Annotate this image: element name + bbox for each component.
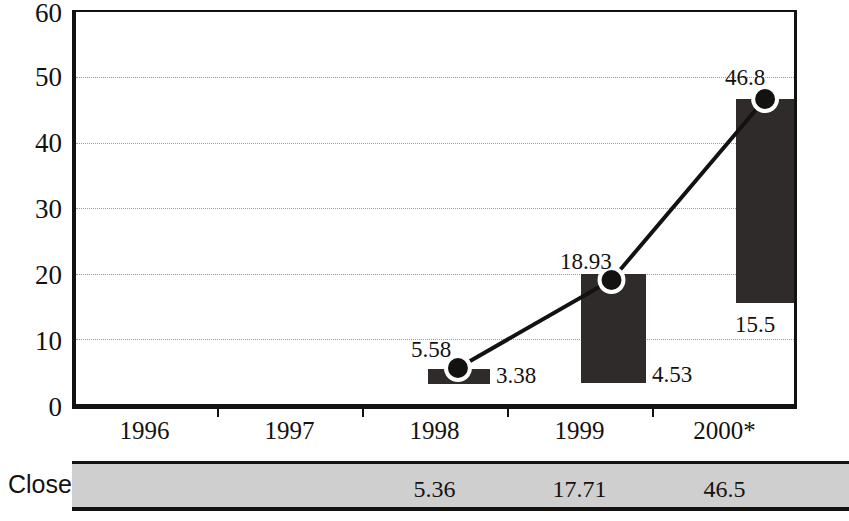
gridline-20 xyxy=(76,274,794,275)
x-axis-label-1997: 1997 xyxy=(217,418,362,443)
data-label-2000-high: 46.8 xyxy=(725,66,765,89)
x-tick-4 xyxy=(652,406,654,417)
chart-figure: 60 50 40 30 20 10 0 5.58 3.38 xyxy=(0,0,849,521)
close-value-1999: 17.71 xyxy=(507,477,652,501)
data-label-1999-high: 18.93 xyxy=(560,250,612,273)
y-axis-tick-50: 50 xyxy=(14,64,62,91)
data-label-1998-high: 5.58 xyxy=(411,338,451,361)
x-tick-3 xyxy=(507,406,509,417)
x-tick-2 xyxy=(362,406,364,417)
y-axis-tick-60: 60 xyxy=(14,0,62,27)
gridline-50 xyxy=(76,77,794,78)
x-axis-label-2000: 2000* xyxy=(652,418,797,443)
gridline-30 xyxy=(76,208,794,209)
bar-1998 xyxy=(428,369,490,384)
data-label-1998-low: 3.38 xyxy=(496,364,536,387)
y-axis-tick-20: 20 xyxy=(14,262,62,289)
y-axis-tick-10: 10 xyxy=(14,328,62,355)
x-axis-label-1996: 1996 xyxy=(72,418,217,443)
data-label-1999-low: 4.53 xyxy=(652,363,692,386)
gridline-40 xyxy=(76,143,794,144)
y-axis-tick-30: 30 xyxy=(14,196,62,223)
close-value-2000: 46.5 xyxy=(652,477,797,501)
x-tick-1 xyxy=(217,406,219,417)
y-axis-tick-40: 40 xyxy=(14,130,62,157)
bar-2000 xyxy=(736,99,794,303)
bar-1999 xyxy=(581,274,646,383)
close-value-1998: 5.36 xyxy=(362,477,507,501)
y-axis-tick-0: 0 xyxy=(14,394,62,421)
x-axis-label-1999: 1999 xyxy=(507,418,652,443)
close-row-label: Close xyxy=(8,472,72,497)
data-label-2000-low: 15.5 xyxy=(735,313,775,336)
close-row: 5.36 17.71 46.5 xyxy=(72,461,849,511)
x-axis-label-1998: 1998 xyxy=(362,418,507,443)
